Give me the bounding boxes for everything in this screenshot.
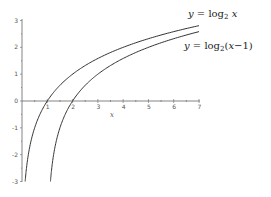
y-tick-label: 0 [14,97,18,104]
y-tick-label: -2 [12,151,18,158]
y-tick-label: -3 [12,178,18,185]
tick-labels: 1234567-3-2-10123 [12,17,202,185]
y-tick-label: 1 [14,70,18,77]
y-tick-label: 2 [14,43,18,50]
x-tick-label: 1 [46,103,50,110]
chart: 1234567-3-2-10123 x y = log2 xy = log2(x… [0,0,271,197]
curve-labels: y = log2 xy = log2(x−1) [183,8,253,53]
x-tick-label: 6 [172,103,176,110]
x-axis-label: x [110,111,114,119]
y-tick-label: 3 [14,17,18,24]
curve-label: y = log2(x−1) [183,40,253,53]
axes [22,19,200,182]
x-tick-label: 5 [147,103,151,110]
curve-label: y = log2 x [187,8,238,21]
x-tick-label: 7 [198,103,202,110]
x-tick-label: 4 [122,103,126,110]
x-tick-label: 2 [71,103,75,110]
x-tick-label: 3 [96,103,100,110]
y-tick-label: -1 [12,124,18,131]
